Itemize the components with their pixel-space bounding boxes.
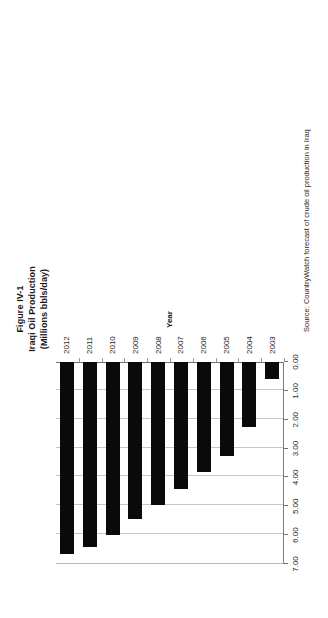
plot-area (56, 362, 284, 564)
bar-series (56, 362, 283, 563)
bar-row (124, 362, 147, 563)
value-axis-label: 0.00 (291, 354, 300, 370)
category-axis-tick (238, 358, 239, 362)
value-axis-label: 3.00 (291, 441, 300, 457)
value-axis-tick (284, 390, 288, 391)
value-axis-tick (284, 419, 288, 420)
category-axis-tick (79, 358, 80, 362)
bar-row (170, 362, 193, 563)
bar-2004[interactable] (242, 362, 256, 427)
value-axis-tick (284, 563, 288, 564)
value-axis-label: 6.00 (291, 527, 300, 543)
bar-2005[interactable] (220, 362, 234, 456)
bar-row (193, 362, 216, 563)
value-axis-label: 2.00 (291, 412, 300, 428)
category-axis-tick (170, 358, 171, 362)
figure-title-line-2: Iraqi Oil Production (26, 0, 38, 618)
value-axis-label: 7.00 (291, 556, 300, 572)
category-axis-tick (102, 358, 103, 362)
category-label-2011: 2011 (85, 337, 94, 354)
category-label-2004: 2004 (245, 336, 254, 354)
bar-2009[interactable] (128, 362, 142, 519)
value-axis-label: 5.00 (291, 499, 300, 515)
category-axis-title: Year (165, 311, 174, 328)
category-axis-tick (124, 358, 125, 362)
bar-row (79, 362, 102, 563)
value-axis-tick (284, 505, 288, 506)
bar-row (147, 362, 170, 563)
bar-row (261, 362, 284, 563)
category-axis-tick (147, 358, 148, 362)
figure-canvas: Figure IV-1 Iraqi Oil Production (Millio… (0, 0, 328, 618)
value-axis-label: 4.00 (291, 470, 300, 486)
plot-wrap: 7.006.005.004.003.002.001.000.00 2012201… (56, 362, 284, 564)
category-axis-tick (216, 358, 217, 362)
bar-row (238, 362, 261, 563)
figure-title-line-3: (Millions bbls/day) (38, 0, 50, 618)
bar-row (102, 362, 125, 563)
bar-2003[interactable] (265, 362, 279, 379)
category-label-2008: 2008 (154, 336, 163, 354)
figure-title-line-1: Figure IV-1 (14, 0, 26, 618)
value-axis-tick (284, 534, 288, 535)
category-label-2009: 2009 (131, 336, 140, 354)
bar-2010[interactable] (106, 362, 120, 535)
bar-2007[interactable] (174, 362, 188, 489)
bar-2012[interactable] (60, 362, 74, 554)
category-label-2012: 2012 (62, 336, 71, 354)
category-label-2007: 2007 (176, 336, 185, 354)
category-axis-tick (193, 358, 194, 362)
value-axis-tick (284, 448, 288, 449)
category-label-2010: 2010 (108, 336, 117, 354)
value-axis-label: 1.00 (291, 383, 300, 399)
category-label-2003: 2003 (268, 336, 277, 354)
source-note: Source: CountryWatch forecast of crude o… (302, 129, 311, 332)
category-axis-tick (261, 358, 262, 362)
bar-row (56, 362, 79, 563)
bar-2006[interactable] (197, 362, 211, 472)
bar-row (216, 362, 239, 563)
category-label-2006: 2006 (199, 336, 208, 354)
figure-title-block: Figure IV-1 Iraqi Oil Production (Millio… (14, 0, 50, 618)
bar-2011[interactable] (83, 362, 97, 547)
category-label-2005: 2005 (222, 336, 231, 354)
category-axis-tick (284, 358, 285, 362)
value-axis-tick (284, 476, 288, 477)
bar-2008[interactable] (151, 362, 165, 505)
